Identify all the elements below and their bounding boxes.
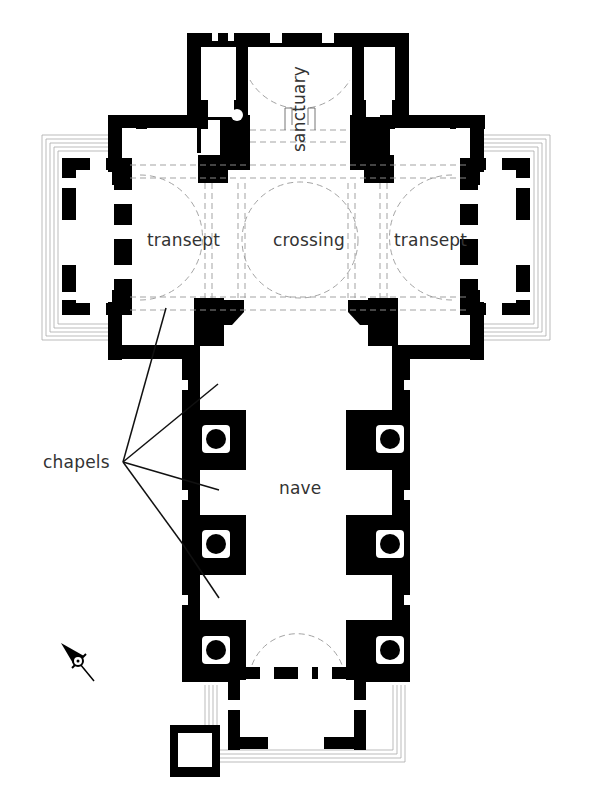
bell-tower [170, 725, 220, 777]
label-nave: nave [279, 478, 322, 498]
label-transept-right: transept [394, 230, 467, 250]
crossing-piers [194, 155, 398, 346]
north-arrow-icon [61, 643, 94, 681]
label-transept-left: transept [147, 230, 220, 250]
label-sanctuary: sanctuary [289, 66, 309, 152]
label-chapels: chapels [43, 452, 110, 472]
label-crossing: crossing [273, 230, 345, 250]
